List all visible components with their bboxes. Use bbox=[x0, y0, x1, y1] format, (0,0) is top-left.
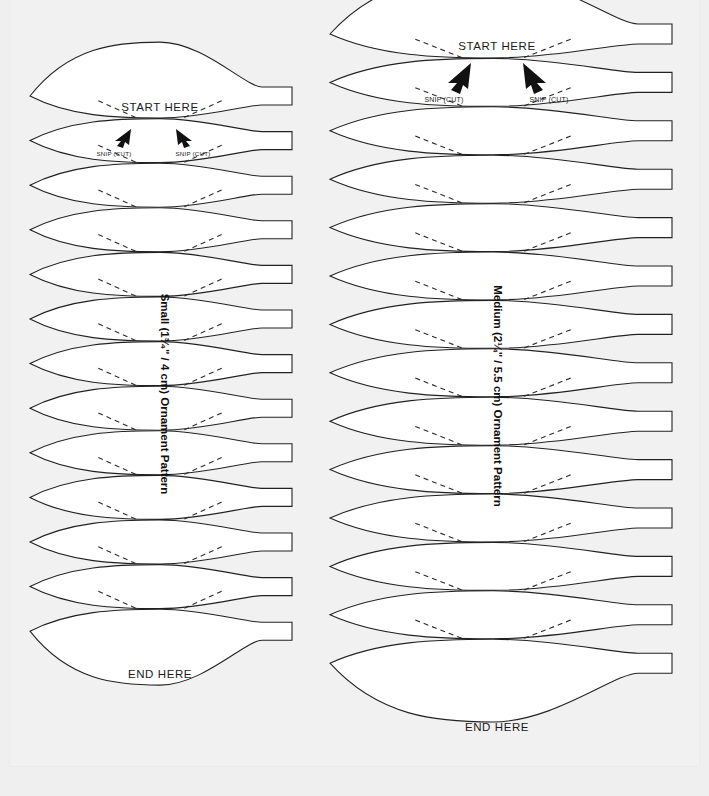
petal-strip bbox=[330, 155, 672, 203]
medium-start-label: START HERE bbox=[458, 40, 536, 52]
petal-strip bbox=[330, 542, 672, 590]
petal-strip bbox=[30, 163, 292, 207]
petal-strip bbox=[30, 252, 292, 296]
medium-pattern-title: Medium (2¼" / 5.5 cm) Ornament Pattern bbox=[492, 285, 504, 506]
medium-snip-label-left: SNIP (CUT) bbox=[424, 96, 463, 104]
petal-strip bbox=[330, 639, 672, 722]
small-snip-label-left: SNIP (CUT) bbox=[97, 150, 132, 157]
small-end-label: END HERE bbox=[128, 668, 192, 680]
pattern-artwork: START HERE SNIP (CUT) SNIP (CUT) Small (… bbox=[0, 0, 709, 796]
petal-strip bbox=[30, 119, 292, 163]
small-start-label: START HERE bbox=[121, 101, 199, 113]
petal-strip bbox=[30, 208, 292, 252]
medium-end-label: END HERE bbox=[465, 721, 529, 733]
pattern-sheet-page: START HERE SNIP (CUT) SNIP (CUT) Small (… bbox=[0, 0, 709, 796]
small-ornament-pattern: START HERE SNIP (CUT) SNIP (CUT) Small (… bbox=[30, 42, 292, 685]
petal-strip bbox=[30, 520, 292, 564]
small-pattern-title: Small (1³⁄₄" / 4 cm) Ornament Pattern bbox=[159, 294, 171, 495]
medium-ornament-pattern: START HERE SNIP (CUT) SNIP (CUT) Medium … bbox=[330, 0, 672, 733]
petal-strip bbox=[330, 204, 672, 252]
petal-strip bbox=[330, 591, 672, 639]
small-snip-label-right: SNIP (CUT) bbox=[176, 150, 211, 157]
petal-strip bbox=[330, 58, 672, 106]
petal-strip bbox=[330, 107, 672, 155]
petal-strip bbox=[30, 565, 292, 609]
medium-snip-label-right: SNIP (CUT) bbox=[529, 96, 568, 104]
